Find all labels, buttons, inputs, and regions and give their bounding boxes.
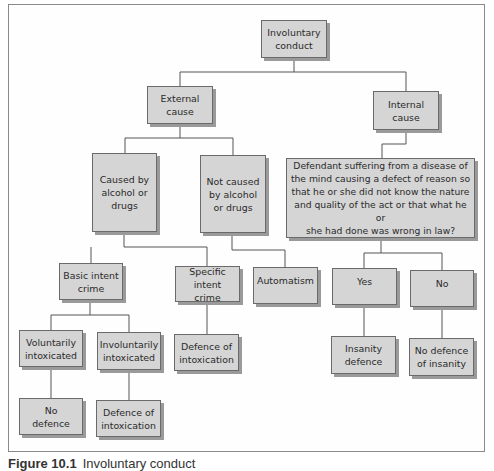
node-not-caused-by-alcohol-or-drugs: Not caused by alcohol or drugs (200, 155, 266, 233)
node-label: No (436, 277, 449, 290)
node-defence-of-intoxication-involuntary: Defence of intoxication (96, 400, 161, 437)
node-label: External cause (161, 92, 200, 118)
node-external-cause: External cause (147, 86, 213, 124)
node-no: No (410, 270, 474, 307)
node-label: No defence (32, 404, 70, 430)
figure-caption-text: Involuntary conduct (83, 456, 196, 471)
node-label: Specific intent crime (179, 265, 236, 304)
figure-label: Figure 10.1 (8, 456, 77, 471)
node-label: Basic intent crime (63, 269, 118, 295)
node-defence-of-intoxication-specific: Defence of intoxication (174, 334, 239, 371)
node-caused-by-alcohol-or-drugs: Caused by alcohol or drugs (92, 153, 157, 232)
node-involuntary-conduct: Involuntary conduct (261, 20, 327, 58)
node-label: Defence of intoxication (101, 406, 156, 432)
node-label: Automatism (257, 274, 314, 287)
node-label: Voluntarily intoxicated (25, 336, 77, 362)
node-label: Insanity defence (345, 342, 383, 368)
node-internal-cause: Internal cause (373, 91, 439, 130)
node-no-defence: No defence (19, 398, 83, 435)
figure-caption: Figure 10.1Involuntary conduct (8, 456, 195, 471)
node-basic-intent-crime: Basic intent crime (59, 263, 123, 300)
node-yes: Yes (332, 268, 397, 305)
node-label: Internal cause (388, 98, 424, 124)
node-label: Involuntary conduct (267, 26, 320, 52)
node-label: Defence of intoxication (179, 340, 234, 366)
node-involuntarily-intoxicated: Involuntarily intoxicated (97, 332, 161, 370)
node-label: Yes (357, 275, 372, 288)
node-disease-of-mind-question: Defendant suffering from a disease of th… (286, 158, 475, 238)
node-voluntarily-intoxicated: Voluntarily intoxicated (19, 330, 83, 367)
node-specific-intent-crime: Specific intent crime (175, 266, 240, 302)
node-label: Involuntarily intoxicated (100, 338, 159, 364)
node-insanity-defence: Insanity defence (331, 336, 396, 374)
node-automatism: Automatism (253, 267, 318, 304)
node-label: Caused by alcohol or drugs (100, 173, 149, 212)
node-no-defence-of-insanity: No defence of insanity (409, 338, 474, 376)
node-label: No defence of insanity (415, 344, 468, 370)
node-label: Not caused by alcohol or drugs (207, 175, 260, 214)
node-label: Defendant suffering from a disease of th… (290, 159, 471, 237)
